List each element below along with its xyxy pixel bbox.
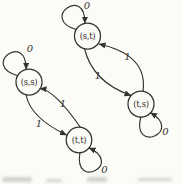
transition-label: 1 — [36, 118, 42, 129]
state-label: (t,t) — [72, 135, 87, 145]
self-loop-label: 0 — [162, 126, 169, 137]
state-label: (s,t) — [80, 31, 96, 41]
transition-label: 1 — [124, 51, 130, 62]
transition-label: 1 — [95, 70, 101, 81]
figure-page: 00001111(s,t)(s,s)(t,s)(t,t) — [0, 0, 182, 184]
self-loop-label: 0 — [27, 43, 34, 54]
self-loop-label: 0 — [84, 0, 91, 11]
self-loop-label: 0 — [101, 164, 108, 175]
state-label: (t,s) — [133, 99, 149, 109]
automaton-diagram: 00001111(s,t)(s,s)(t,s)(t,t) — [3, 0, 169, 175]
transition-curve — [99, 44, 143, 91]
diagram-canvas: 00001111(s,t)(s,s)(t,s)(t,t) — [0, 0, 182, 184]
transition-label: 1 — [60, 98, 66, 109]
state-label: (s,s) — [21, 77, 38, 87]
